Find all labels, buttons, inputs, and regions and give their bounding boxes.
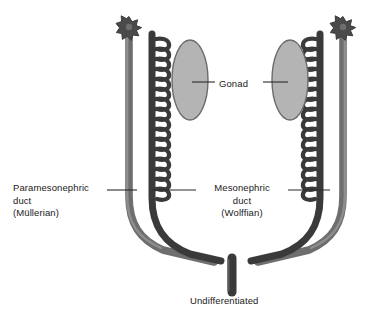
paramesonephric-label-line1: Paramesonephric <box>13 182 89 195</box>
paramesonephric-duct-label: Paramesonephric duct (Müllerian) <box>13 182 89 220</box>
paramesonephric-label-line3: (Müllerian) <box>13 207 89 220</box>
paramesonephric-label-line2: duct <box>13 195 89 208</box>
undifferentiated-tract-diagram <box>0 0 380 319</box>
gonad-left <box>172 40 208 120</box>
figure-root: Gonad Paramesonephric duct (Müllerian) M… <box>0 0 380 319</box>
mesonephric-label-line3: (Wolffian) <box>198 207 286 220</box>
mesonephric-label-line1: Mesonephric <box>198 182 286 195</box>
gonad-label: Gonad <box>219 78 248 91</box>
gonad-right <box>272 40 308 120</box>
mesonephric-label-line2: duct <box>198 195 286 208</box>
gonad-label-text: Gonad <box>219 78 248 89</box>
undifferentiated-caption: Undifferentiated <box>190 295 259 308</box>
mesonephric-duct-label: Mesonephric duct (Wolffian) <box>198 182 286 220</box>
urogenital-sinus-trunk <box>229 258 233 292</box>
undifferentiated-caption-text: Undifferentiated <box>190 295 259 306</box>
